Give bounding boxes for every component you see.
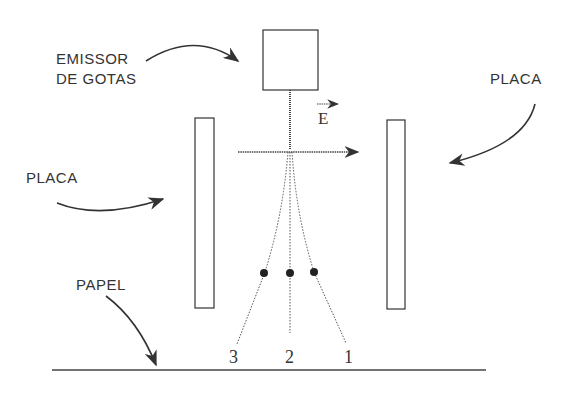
plate-right [387, 120, 405, 309]
trajectory-1 [292, 152, 346, 343]
plate-right-label: PLACA [490, 70, 542, 87]
droplet-3 [260, 269, 268, 277]
droplet-2 [286, 269, 294, 277]
plate-left-label: PLACA [26, 169, 78, 186]
plate-left [195, 118, 214, 308]
trajectory-label-1: 1 [344, 347, 353, 367]
paper-pointer-arrow [106, 296, 156, 365]
trajectory-3 [237, 152, 288, 344]
trajectory-label-2: 2 [285, 347, 294, 367]
droplet-emitter [263, 30, 318, 90]
emitter-label-line2: DE GOTAS [56, 70, 136, 87]
plate-left-pointer-arrow [57, 199, 163, 211]
droplet-1 [310, 268, 318, 276]
e-field-label: E [318, 109, 328, 128]
paper-label: PAPEL [76, 276, 126, 293]
ink-jet-deflection-diagram: E 3 2 1 EMISSOR DE GOTAS PLACA PLACA PAP… [0, 0, 579, 395]
emitter-label-line1: EMISSOR [56, 50, 129, 67]
plate-right-pointer-arrow [450, 104, 535, 163]
emitter-pointer-arrow [146, 46, 238, 62]
trajectory-label-3: 3 [229, 347, 238, 367]
